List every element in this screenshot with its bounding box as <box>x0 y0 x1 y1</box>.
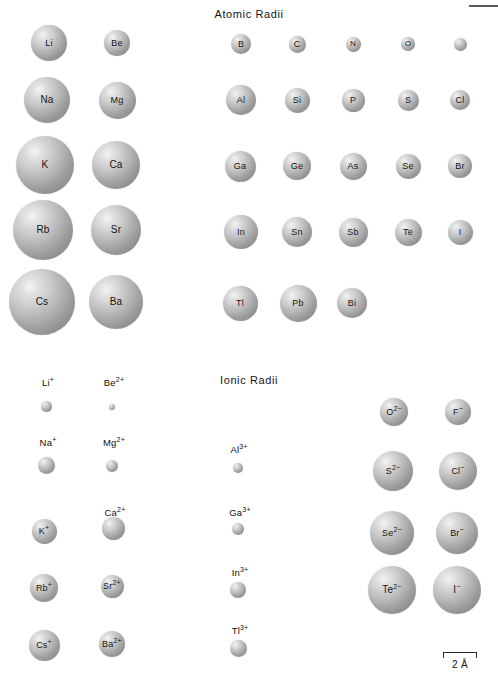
sphere-label: S2− <box>386 467 401 476</box>
sphere-label: Rb <box>36 225 49 235</box>
sphere-label: Ga <box>234 162 246 171</box>
sphere-Br-ion: Br− <box>436 512 478 554</box>
external-label-Al: Al3+ <box>230 445 247 455</box>
sphere-Rb: Rb <box>13 200 73 260</box>
external-label-Ga: Ga3+ <box>229 508 250 518</box>
sphere-Se: Se <box>396 154 421 179</box>
sphere-Al: Al <box>226 85 256 115</box>
sphere-B: B <box>231 34 251 54</box>
external-label-Tl: Tl3+ <box>232 626 249 636</box>
sphere-label: Al <box>237 96 245 105</box>
sphere-label: Br− <box>450 529 464 538</box>
sphere-In-ion <box>230 582 246 598</box>
sphere-label: Se2− <box>382 529 402 538</box>
sphere-Se-ion: Se2− <box>370 511 414 555</box>
sphere-label: Br <box>455 162 464 171</box>
sphere-Be: Be <box>104 30 130 56</box>
sphere-label: Te <box>403 228 413 237</box>
sphere-Cl-ion: Cl− <box>439 452 477 490</box>
section-title-atomic: Atomic Radii <box>215 8 284 20</box>
sphere-Br: Br <box>448 154 472 178</box>
sphere-Mg: Mg <box>99 82 136 119</box>
sphere-In: In <box>224 215 258 249</box>
sphere-label: Tl <box>236 299 244 308</box>
sphere-label: Rb+ <box>36 584 52 593</box>
page-rule-artifact <box>469 5 498 7</box>
sphere-label: In <box>237 228 245 237</box>
sphere-label: Sb <box>347 228 358 237</box>
scale-bar: 2 Å <box>443 652 477 670</box>
sphere-Ca: Ca <box>92 141 140 189</box>
sphere-label: Sr2+ <box>103 582 121 591</box>
sphere-label: Be <box>111 39 122 48</box>
sphere-label: Te2− <box>382 585 401 595</box>
scale-bar-label: 2 Å <box>443 659 477 670</box>
sphere-label: Pb <box>292 299 303 308</box>
external-label-In: In3+ <box>232 568 249 578</box>
sphere-label: Sn <box>291 228 302 237</box>
sphere-O: O <box>401 37 415 51</box>
sphere-Sr: Sr <box>91 205 141 255</box>
sphere-C: C <box>289 36 306 53</box>
sphere-K: K <box>16 136 74 194</box>
sphere-N: N <box>346 37 361 52</box>
sphere-Te-ion: Te2− <box>368 566 416 614</box>
sphere-label: Sr <box>111 225 121 235</box>
sphere-P: P <box>342 89 365 112</box>
sphere-label: Na <box>40 95 53 105</box>
external-label-Na: Na+ <box>40 438 57 448</box>
sphere-Tl-ion <box>230 640 247 657</box>
sphere-Be-ion <box>109 404 115 410</box>
sphere-label: Cs+ <box>36 641 52 650</box>
sphere-label: O <box>405 40 411 48</box>
sphere-label: Ca <box>109 160 122 170</box>
scale-bar-rule <box>443 652 477 658</box>
sphere-label: Ba2+ <box>102 640 122 649</box>
sphere-I: I <box>448 220 473 245</box>
sphere-O-ion: O2− <box>380 398 408 426</box>
external-label-Mg: Mg2+ <box>103 438 125 448</box>
external-label-Be: Be2+ <box>104 378 124 388</box>
sphere-F-ion: F− <box>445 399 471 425</box>
sphere-label: K <box>42 160 49 170</box>
sphere-S: S <box>398 90 419 111</box>
sphere-label: Cl− <box>451 467 464 476</box>
sphere-Ba: Ba <box>89 275 143 329</box>
sphere-label: Cl <box>456 96 465 105</box>
sphere-Bi: Bi <box>337 288 367 318</box>
sphere-label: Li <box>45 39 52 48</box>
sphere-label: F− <box>453 408 463 417</box>
sphere-label: Se <box>402 162 413 171</box>
radii-figure: Atomic Radii Ionic Radii LiBeBCNONaMgAlS… <box>0 0 498 685</box>
sphere-label: O2− <box>386 408 402 417</box>
sphere-Na-ion <box>38 457 55 474</box>
sphere-Sn: Sn <box>282 217 312 247</box>
external-label-Li: Li+ <box>42 378 54 388</box>
sphere-F <box>454 38 467 51</box>
sphere-label: I− <box>453 585 460 595</box>
sphere-label: C <box>294 40 301 49</box>
sphere-Sr-ion: Sr2+ <box>101 575 124 598</box>
sphere-label: K+ <box>39 527 50 536</box>
section-title-ionic: Ionic Radii <box>220 374 278 386</box>
sphere-Ba-ion: Ba2+ <box>99 631 125 657</box>
sphere-Ga: Ga <box>225 151 256 182</box>
sphere-Cs: Cs <box>9 269 75 335</box>
sphere-Rb-ion: Rb+ <box>30 574 58 602</box>
sphere-label: N <box>350 40 356 48</box>
sphere-As: As <box>340 153 367 180</box>
external-label-Ca: Ca2+ <box>105 508 126 518</box>
sphere-Li-ion <box>41 401 52 412</box>
sphere-Te: Te <box>395 219 422 246</box>
sphere-Tl: Tl <box>223 286 258 321</box>
sphere-Cl: Cl <box>450 90 470 110</box>
sphere-label: Si <box>293 96 301 105</box>
sphere-Cs-ion: Cs+ <box>29 630 60 661</box>
sphere-label: S <box>405 96 411 105</box>
sphere-Al-ion <box>233 463 243 473</box>
sphere-Na: Na <box>24 77 70 123</box>
sphere-Pb: Pb <box>280 285 317 322</box>
sphere-label: P <box>350 96 356 105</box>
sphere-label: Mg <box>111 96 124 105</box>
sphere-Ga-ion <box>232 523 244 535</box>
